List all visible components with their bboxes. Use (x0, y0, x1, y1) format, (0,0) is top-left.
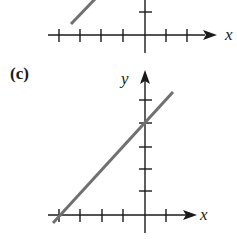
panel-top-partial: x (48, 0, 233, 53)
panel-label: (c) (10, 64, 29, 83)
y-axis-label: y (119, 69, 129, 88)
graph-line (53, 92, 173, 223)
panel-c: (c) y x (10, 64, 208, 233)
x-axis-arrow-icon (203, 30, 217, 40)
graph-line (71, 0, 96, 24)
figure-canvas: x (c) y x (0, 0, 237, 239)
x-axis-label: x (224, 25, 233, 44)
x-axis-label: x (199, 205, 208, 224)
